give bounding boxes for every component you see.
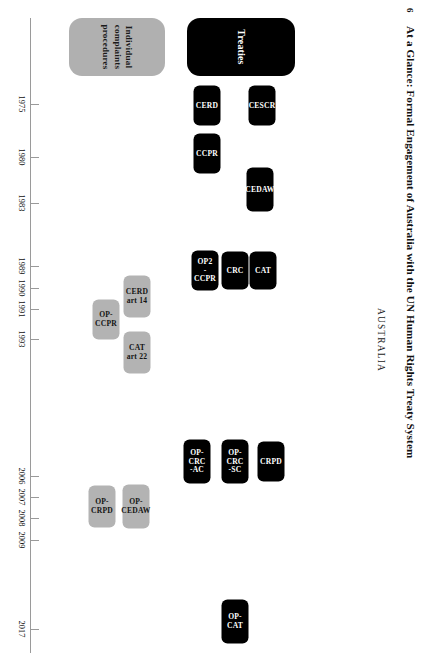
year-label-1993: 1993 (17, 330, 26, 347)
complaint-item-label: CAT art 22 (127, 344, 147, 361)
axis-tick-2008 (31, 518, 39, 519)
axis-tick-1983 (31, 203, 39, 204)
treaty-item-label: OP-CRC -SC (224, 449, 247, 475)
treaty-item-label: CCPR (196, 149, 218, 158)
axis-tick-1990 (31, 288, 39, 289)
treaty-item-crc: CRC (222, 252, 249, 290)
treaty-item-cesscr: CESCR (249, 86, 276, 126)
complaint-item-opccpr: OP- CCPR (93, 300, 120, 340)
treaty-item-label: OP-CRC -AC (186, 449, 209, 475)
axis-tick-1980 (31, 157, 39, 158)
complaint-item-label: CERD art 14 (126, 288, 148, 305)
treaty-item-cerd: CERD (194, 86, 221, 126)
treaty-item-crpd: CRPD (258, 442, 285, 482)
year-label-2007: 2007 (17, 488, 26, 505)
complaint-item-label: OP- CCPR (95, 311, 117, 328)
complaint-item-opcrpd: OP- CRPD (89, 486, 116, 528)
year-label-1990: 1990 (17, 279, 26, 296)
axis-tick-1989 (31, 266, 39, 267)
year-label-1991: 1991 (17, 300, 26, 317)
year-label-2008: 2008 (17, 509, 26, 526)
year-label-2009: 2009 (17, 531, 26, 548)
timeline-figure: 6 At a Glance: Formal Engagement of Aust… (0, 0, 423, 665)
axis-tick-1975 (31, 104, 39, 105)
year-label-2017: 2017 (17, 620, 26, 637)
year-label-1983: 1983 (17, 194, 26, 211)
year-label-2006: 2006 (17, 467, 26, 484)
year-label-1980: 1980 (17, 148, 26, 165)
figure-title: At a Glance: Formal Engagement of Austra… (405, 26, 417, 458)
treaty-item-opcat: OP-CAT (222, 600, 249, 644)
figure-number: 6 (405, 8, 415, 13)
category-individual-complaints-procedures: Individual complaints procedures (69, 18, 165, 76)
country-label: AUSTRALIA (376, 308, 386, 372)
treaty-item-opcrcac: OP-CRC -AC (184, 440, 211, 484)
axis-tick-2006 (31, 476, 39, 477)
figure-canvas: 6 At a Glance: Formal Engagement of Aust… (0, 0, 423, 665)
complaint-item-label: OP- CEDAW (121, 498, 150, 515)
treaty-item-opcrcsc: OP-CRC -SC (222, 440, 249, 484)
treaty-item-cedaw: CEDAW (247, 168, 274, 212)
treaty-item-label: OP2 -CCPR (194, 258, 217, 284)
complaint-item-opcedaw: OP- CEDAW (123, 485, 150, 529)
timeline-axis (30, 18, 31, 653)
complaint-item-catart22: CAT art 22 (124, 332, 151, 374)
treaty-item-label: CEDAW (245, 185, 274, 194)
treaty-item-label: CAT (255, 266, 271, 275)
category-treaties: Treaties (187, 18, 295, 76)
treaty-item-ccpr: CCPR (194, 134, 221, 174)
complaint-item-label: OP- CRPD (91, 498, 113, 515)
axis-tick-1991 (31, 309, 39, 310)
treaty-item-label: OP-CAT (224, 613, 247, 630)
treaty-item-label: CRPD (260, 457, 282, 466)
year-label-1989: 1989 (17, 257, 26, 274)
treaty-item-cat: CAT (250, 252, 277, 290)
axis-tick-2007 (31, 497, 39, 498)
axis-tick-1993 (31, 339, 39, 340)
complaint-item-cerdart14: CERD art 14 (124, 276, 151, 318)
treaty-item-label: CERD (196, 101, 218, 110)
axis-tick-2017 (31, 629, 39, 630)
axis-tick-2009 (31, 540, 39, 541)
year-label-1975: 1975 (17, 95, 26, 112)
treaty-item-label: CESCR (249, 101, 276, 110)
treaty-item-op2ccpr: OP2 -CCPR (192, 251, 219, 291)
treaty-item-label: CRC (226, 266, 243, 275)
